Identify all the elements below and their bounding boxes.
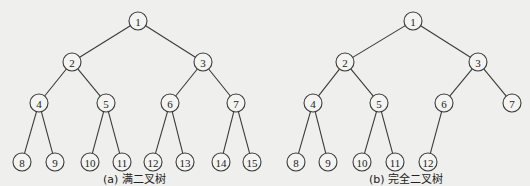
tree-b-node-6: 6 xyxy=(435,94,453,112)
node-label: 10 xyxy=(357,157,369,169)
node-label: 8 xyxy=(19,157,25,169)
node-label: 2 xyxy=(69,57,75,69)
tree-a-edge-6-12 xyxy=(155,112,167,154)
node-label: 1 xyxy=(410,16,416,28)
tree-b-edge-5-11 xyxy=(381,112,392,154)
node-label: 9 xyxy=(52,157,58,169)
node-label: 4 xyxy=(36,98,42,110)
node-label: 1 xyxy=(135,16,141,28)
tree-a-node-2: 2 xyxy=(63,53,81,71)
tree-b-node-12: 12 xyxy=(419,153,437,171)
node-label: 13 xyxy=(180,157,192,169)
tree-a-node-3: 3 xyxy=(194,53,212,71)
tree-a-edge-4-9 xyxy=(41,112,52,154)
tree-b-edge-4-9 xyxy=(315,112,326,154)
tree-b-node-5: 5 xyxy=(370,94,388,112)
tree-a-node-13: 13 xyxy=(176,153,194,171)
tree-a-edge-2-4 xyxy=(45,69,67,96)
node-label: 11 xyxy=(390,157,401,169)
node-label: 10 xyxy=(85,157,97,169)
tree-a-node-8: 8 xyxy=(13,153,31,171)
node-label: 5 xyxy=(103,98,109,110)
tree-b-node-1: 1 xyxy=(404,12,422,30)
tree-b-edge-3-6 xyxy=(450,69,473,96)
node-label: 3 xyxy=(200,57,206,69)
tree-a-node-6: 6 xyxy=(161,94,179,112)
binary-tree-diagram: 123456789101112131415123456789101112 xyxy=(0,0,530,186)
tree-a-edge-5-11 xyxy=(108,112,119,154)
tree-b-edge-5-10 xyxy=(364,112,376,154)
tree-a-edge-3-6 xyxy=(176,69,198,96)
node-label: 14 xyxy=(216,157,228,169)
tree-b-node-8: 8 xyxy=(287,153,305,171)
tree-a-edge-1-3 xyxy=(146,26,196,57)
node-label: 8 xyxy=(293,157,299,169)
node-label: 4 xyxy=(310,98,316,110)
tree-b-node-7: 7 xyxy=(503,94,521,112)
tree-b-edge-3-7 xyxy=(484,69,507,96)
tree-a-node-7: 7 xyxy=(227,94,245,112)
node-label: 9 xyxy=(325,157,331,169)
node-label: 12 xyxy=(148,157,159,169)
tree-a-node-5: 5 xyxy=(97,94,115,112)
node-label: 5 xyxy=(376,98,382,110)
tree-b-edge-2-4 xyxy=(319,69,340,96)
tree-a-edge-3-7 xyxy=(209,69,231,96)
tree-a-edge-6-13 xyxy=(172,112,183,154)
tree-a-node-11: 11 xyxy=(113,153,131,171)
caption-complete-binary-tree: (b) 完全二叉树 xyxy=(369,170,443,186)
node-label: 15 xyxy=(247,157,259,169)
tree-a-edge-1-2 xyxy=(80,26,131,58)
tree-a-node-12: 12 xyxy=(144,153,162,171)
tree-a-node-10: 10 xyxy=(81,153,99,171)
node-label: 7 xyxy=(233,98,239,110)
tree-a-node-1: 1 xyxy=(129,12,147,30)
node-label: 7 xyxy=(509,98,515,110)
tree-a-edge-5-10 xyxy=(92,112,103,154)
tree-a-edge-2-5 xyxy=(78,69,101,96)
tree-a-edge-7-15 xyxy=(238,112,249,154)
tree-b-edge-1-2 xyxy=(353,26,406,58)
tree-b-edge-4-8 xyxy=(298,112,310,154)
tree-a-edge-4-8 xyxy=(24,112,36,154)
tree-b-node-2: 2 xyxy=(336,53,354,71)
tree-b-node-9: 9 xyxy=(319,153,337,171)
tree-b-node-3: 3 xyxy=(469,53,487,71)
tree-b-edge-2-5 xyxy=(351,69,374,96)
tree-b-node-4: 4 xyxy=(304,94,322,112)
tree-a-node-14: 14 xyxy=(212,153,230,171)
tree-a-node-15: 15 xyxy=(243,153,261,171)
tree-a-edge-7-14 xyxy=(223,112,234,154)
tree-b-node-10: 10 xyxy=(353,153,371,171)
node-label: 3 xyxy=(475,57,481,69)
node-label: 12 xyxy=(423,157,434,169)
tree-a-node-4: 4 xyxy=(30,94,48,112)
caption-full-binary-tree: (a) 满二叉树 xyxy=(103,170,166,186)
tree-b-edge-1-3 xyxy=(421,26,471,57)
node-label: 2 xyxy=(342,57,348,69)
node-label: 6 xyxy=(441,98,447,110)
tree-b-node-11: 11 xyxy=(386,153,404,171)
tree-b-edge-6-12 xyxy=(430,112,441,154)
node-label: 6 xyxy=(167,98,173,110)
tree-a-node-9: 9 xyxy=(46,153,64,171)
node-label: 11 xyxy=(117,157,128,169)
